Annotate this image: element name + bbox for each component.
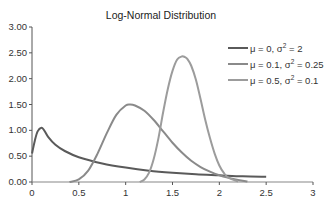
legend-item-2: μ = 0.1, σ2 = 0.25: [228, 56, 324, 72]
x-tick-label: 1: [116, 188, 136, 198]
legend-label: μ = 0, σ2 = 2: [250, 42, 302, 54]
y-tick-label: 3.00: [0, 22, 27, 32]
y-tick-label: 1.50: [0, 100, 27, 110]
y-tick-label: 2.00: [0, 74, 27, 84]
y-tick-label: 1.00: [0, 125, 27, 135]
series-line-1: [32, 128, 266, 177]
x-tick-label: 2: [209, 188, 229, 198]
x-tick-label: 0.5: [69, 188, 89, 198]
x-tick-label: 1.5: [163, 188, 183, 198]
y-tick-label: 0.00: [0, 177, 27, 187]
legend-swatch: [228, 47, 248, 49]
series-line-3: [140, 56, 238, 182]
x-tick-label: 2.5: [256, 188, 276, 198]
legend-swatch: [228, 79, 248, 81]
y-tick-label: 2.50: [0, 48, 27, 58]
series-line-2: [69, 104, 247, 182]
legend-item-1: μ = 0, σ2 = 2: [228, 40, 324, 56]
legend-label: μ = 0.5, σ2 = 0.1: [250, 74, 318, 86]
legend-swatch: [228, 63, 248, 65]
legend-label: μ = 0.1, σ2 = 0.25: [250, 58, 324, 70]
y-tick-label: 0.50: [0, 151, 27, 161]
x-tick-label: 3: [303, 188, 323, 198]
legend-item-3: μ = 0.5, σ2 = 0.1: [228, 72, 324, 88]
x-tick-label: 0: [22, 188, 42, 198]
legend: μ = 0, σ2 = 2μ = 0.1, σ2 = 0.25μ = 0.5, …: [228, 40, 324, 88]
